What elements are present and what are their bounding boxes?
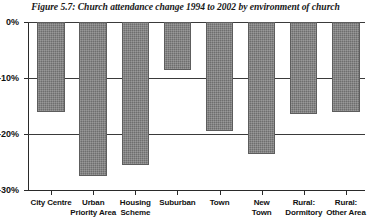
y-tick-0: 0% — [24, 22, 28, 23]
y-tick-3: -30% — [24, 190, 28, 191]
bar-town[interactable] — [206, 22, 233, 131]
bar-rural-other-area[interactable] — [332, 22, 359, 112]
bar-urban-priority-area[interactable] — [79, 22, 106, 176]
y-axis-label-2: -20% — [0, 130, 19, 139]
x-label-line2: Other Area — [320, 208, 371, 218]
figure-title: Figure 5.7: Church attendance change 199… — [0, 0, 371, 14]
x-tick-0 — [51, 191, 52, 195]
x-tick-3 — [177, 191, 178, 195]
y-axis-line — [28, 22, 29, 190]
bar-housing-scheme[interactable] — [122, 22, 149, 165]
x-label-line1: Rural: — [293, 198, 315, 207]
y-tick-2: -20% — [24, 134, 28, 135]
x-tick-6 — [304, 191, 305, 195]
x-label-line1: Housing — [120, 198, 151, 207]
x-tick-1 — [93, 191, 94, 195]
y-axis-label-1: -10% — [0, 74, 19, 83]
x-label-line1: City Centre — [31, 198, 72, 207]
x-tick-2 — [135, 191, 136, 195]
y-axis-label-0: 0% — [6, 18, 19, 27]
chart-plot-area: 0% -10% -20% -30% City Centre Urban Prio… — [28, 22, 365, 190]
bar-rural-dormitory[interactable] — [290, 22, 317, 114]
x-label-line1: Rural: — [335, 198, 357, 207]
x-label-line1: New — [254, 198, 270, 207]
x-label-line2: Scheme — [109, 208, 161, 218]
bar-city-centre[interactable] — [37, 22, 64, 112]
x-tick-5 — [262, 191, 263, 195]
x-axis-label-rural-other-area: Rural: Other Area — [320, 198, 371, 217]
x-label-line1: Suburban — [159, 198, 195, 207]
bar-suburban[interactable] — [164, 22, 191, 70]
x-label-line1: Town — [210, 198, 230, 207]
bar-new-town[interactable] — [248, 22, 275, 154]
y-axis-label-3: -30% — [0, 186, 19, 195]
x-label-line1: Urban — [82, 198, 104, 207]
x-axis-line — [28, 190, 365, 191]
x-tick-7 — [346, 191, 347, 195]
x-tick-4 — [220, 191, 221, 195]
y-tick-1: -10% — [24, 78, 28, 79]
